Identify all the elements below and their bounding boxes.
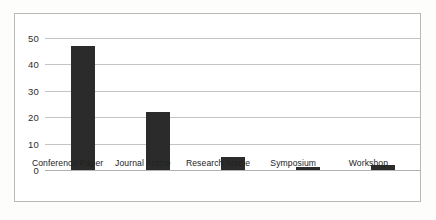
- plot-area: 01020304050: [45, 38, 421, 170]
- x-axis-category-label: Research Article: [180, 158, 255, 169]
- y-axis-tick-label: 10: [28, 139, 39, 150]
- bar-slot: [195, 38, 270, 170]
- chart-frame: 01020304050: [14, 13, 421, 202]
- x-axis-labels: Conference PaperJournal ArticleResearch …: [30, 158, 406, 169]
- y-axis-tick-label: 50: [28, 33, 39, 44]
- x-axis-category-label: Symposium: [256, 158, 331, 169]
- y-axis-tick-label: 20: [28, 112, 39, 123]
- y-axis-tick-label: 30: [28, 86, 39, 97]
- bars-group: [45, 38, 421, 170]
- bar-slot: [271, 38, 346, 170]
- x-axis-category-label: Workshop: [331, 158, 406, 169]
- y-axis-tick-label: 40: [28, 59, 39, 70]
- bar-slot: [346, 38, 421, 170]
- bar-slot: [120, 38, 195, 170]
- x-axis-category-label: Conference Paper: [30, 158, 105, 169]
- bar-slot: [45, 38, 120, 170]
- chart-page: 01020304050 Conference PaperJournal Arti…: [0, 0, 436, 220]
- gridline-0: [45, 170, 421, 171]
- bar[interactable]: [71, 46, 95, 170]
- x-axis-category-label: Journal Article: [105, 158, 180, 169]
